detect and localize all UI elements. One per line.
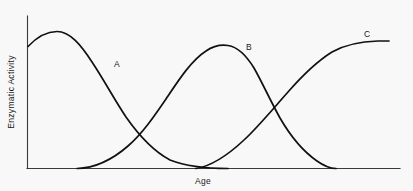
curve-label-a: A: [114, 59, 120, 69]
curve-a: [28, 32, 228, 169]
chart-canvas: A B C Age Enzymatic Activity: [0, 0, 413, 191]
curve-label-b: B: [246, 42, 252, 52]
curve-label-c: C: [364, 29, 370, 39]
curve-c: [196, 41, 389, 169]
axes-group: [27, 16, 400, 169]
curves-group: [28, 32, 389, 169]
curve-labels-group: A B C: [114, 29, 370, 69]
enzyme-activity-chart: A B C Age Enzymatic Activity: [0, 0, 413, 191]
x-axis-title: Age: [195, 176, 211, 186]
y-axis-title: Enzymatic Activity: [6, 55, 16, 129]
